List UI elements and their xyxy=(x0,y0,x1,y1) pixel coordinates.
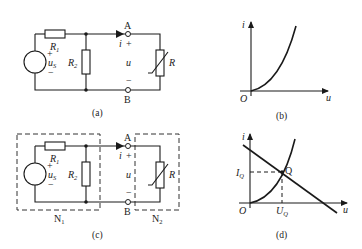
network-n1-label: N1 xyxy=(54,213,64,225)
voltage-source-icon xyxy=(24,51,46,73)
q-label: Q xyxy=(285,165,293,176)
voltage-label: u xyxy=(126,169,131,180)
voltage-label: u xyxy=(126,57,131,68)
graph-d: i u O IQ UQ Q (d) xyxy=(235,131,348,241)
caption-a: (a) xyxy=(92,108,103,119)
terminal-b xyxy=(126,88,131,93)
voltage-source-icon xyxy=(24,163,46,185)
caption-d: (d) xyxy=(276,230,287,241)
current-arrow-icon xyxy=(116,142,124,150)
operating-point-q xyxy=(280,170,284,174)
current-label: i xyxy=(119,38,122,49)
circuit-c: R1 R2 + uS − A B i + u − R N1 N2 (c) xyxy=(17,132,179,241)
caption-b: (b) xyxy=(276,111,287,122)
iv-curve xyxy=(251,26,296,91)
r2-label: R2 xyxy=(67,169,78,181)
circuit-a: R1 R2 + uS − A B i + u − R (a) xyxy=(24,20,175,119)
resistor-r2-icon xyxy=(82,50,90,74)
i-axis-label: i xyxy=(242,131,245,142)
network-n2-label: N2 xyxy=(152,213,162,225)
nonlinear-r-label: R xyxy=(168,57,175,68)
terminal-a xyxy=(126,144,131,149)
resistor-r2-icon xyxy=(82,162,90,186)
voltage-minus: − xyxy=(126,187,132,198)
resistor-r1-icon xyxy=(45,142,65,150)
origin-label: O xyxy=(240,93,247,104)
source-minus: − xyxy=(48,179,54,190)
nonlinear-r-label: R xyxy=(168,169,175,180)
u-axis-label: u xyxy=(343,204,348,215)
wire xyxy=(131,76,160,90)
node-b-label: B xyxy=(124,206,131,217)
i-axis-label: i xyxy=(242,19,245,30)
current-arrow-icon xyxy=(116,30,124,38)
voltage-plus: + xyxy=(126,38,132,49)
current-label: i xyxy=(119,150,122,161)
source-minus: − xyxy=(48,67,54,78)
junction-dot xyxy=(84,88,88,92)
node-a-label: A xyxy=(124,132,132,143)
uq-label: UQ xyxy=(276,205,288,217)
node-b-label: B xyxy=(124,94,131,105)
resistor-r1-icon xyxy=(45,30,65,38)
iq-label: IQ xyxy=(235,167,244,179)
voltage-plus: + xyxy=(126,150,132,161)
node-a-label: A xyxy=(124,20,132,31)
caption-c: (c) xyxy=(92,230,103,241)
terminal-b xyxy=(126,200,131,205)
junction-dot xyxy=(84,200,88,204)
wire xyxy=(131,34,160,50)
voltage-minus: − xyxy=(126,75,132,86)
junction-dot xyxy=(84,32,88,36)
graph-b: i u O (b) xyxy=(240,19,331,122)
u-axis-label: u xyxy=(326,92,331,103)
terminal-a xyxy=(126,32,131,37)
junction-dot xyxy=(84,144,88,148)
r2-label: R2 xyxy=(67,57,78,69)
origin-label: O xyxy=(239,205,246,216)
